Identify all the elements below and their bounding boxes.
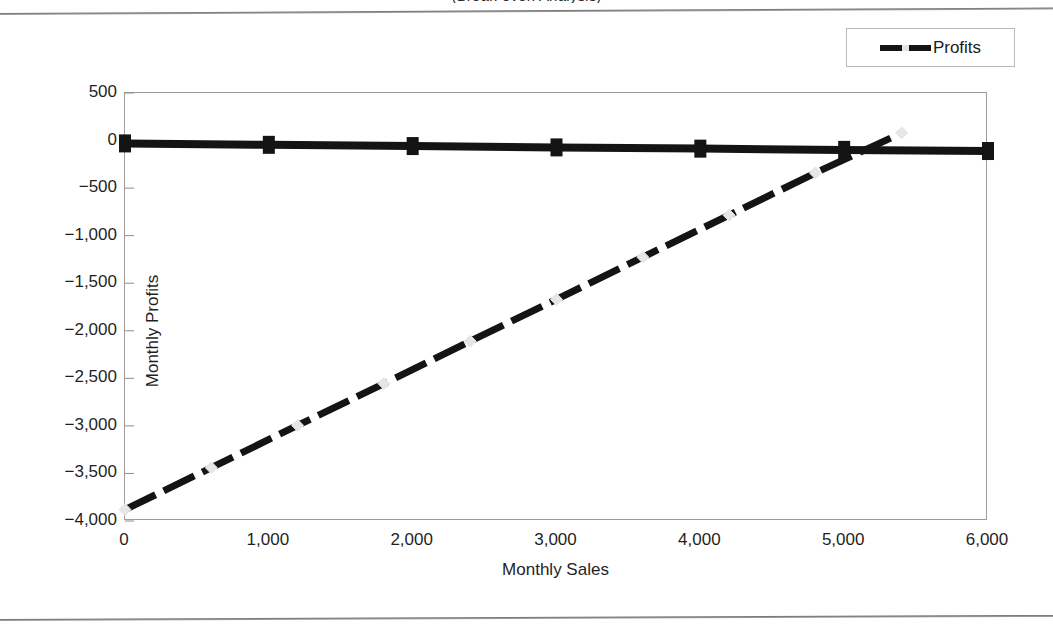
y-axis-tick-label: −1,500 [31,272,117,292]
scanned-chart-page: (Break-even Analysis) Profits 5000−500−1… [0,0,1053,641]
y-axis-tick-label: 500 [31,82,117,102]
data-point-marker-square [551,138,563,156]
y-axis-tick-label: −500 [31,177,117,197]
x-axis-tick-label: 5,000 [798,530,888,550]
x-axis-tick-label: 3,000 [511,530,601,550]
y-axis-tick-label: −4,000 [31,510,117,530]
series-line-profits [125,133,902,510]
y-axis-title: Monthly Profits [143,241,163,421]
x-axis-tick-label: 4,000 [654,530,744,550]
x-axis-tick-label: 0 [79,530,169,550]
x-axis-title: Monthly Sales [124,560,987,580]
chart-title-clipped: (Break-even Analysis) [0,0,1053,3]
data-point-marker-square [838,141,850,159]
y-axis-tick-label: 0 [31,130,117,150]
page-rule-top [0,7,1053,15]
plot-area: Monthly Profits [124,92,987,520]
x-axis-tick-label: 1,000 [223,530,313,550]
data-point-marker-diamond [896,127,908,139]
y-axis-tick-label: −2,500 [31,367,117,387]
y-axis-tick-label: −3,000 [31,415,117,435]
legend-diamond-marker-icon [902,45,909,51]
legend-label-profits: Profits [933,38,981,58]
data-point-marker-square [263,136,275,154]
x-axis-tick-label: 2,000 [367,530,457,550]
data-point-marker-square [119,134,131,152]
chart-legend: Profits [846,28,1015,67]
y-axis-tick-label: −3,500 [31,462,117,482]
page-rule-bottom [0,615,1053,621]
legend-line-swatch-left [880,45,902,51]
y-axis-tick-label: −1,000 [31,225,117,245]
y-axis-tick-labels: 5000−500−1,000−1,500−2,000−2,500−3,000−3… [27,92,117,520]
y-axis-tick-label: −2,000 [31,320,117,340]
plot-svg [124,92,989,522]
x-axis-tick-labels: 01,0002,0003,0004,0005,0006,000 [124,530,987,558]
data-point-marker-square [407,137,419,155]
chart-title-text: (Break-even Analysis) [451,0,601,3]
x-axis-tick-label: 6,000 [942,530,1032,550]
legend-line-swatch-right [909,45,931,51]
data-point-marker-square [694,140,706,158]
data-point-marker-square [982,142,994,160]
